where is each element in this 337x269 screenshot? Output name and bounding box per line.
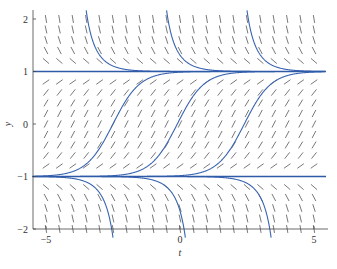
slope-mark <box>139 215 141 223</box>
slope-mark <box>297 80 304 85</box>
slope-mark <box>165 36 167 44</box>
slope-mark <box>312 194 316 201</box>
slope-mark <box>151 110 155 117</box>
slope-mark <box>285 142 289 149</box>
slope-mark <box>231 184 237 189</box>
slope-mark <box>84 152 89 158</box>
slope-mark <box>44 100 48 107</box>
slope-mark <box>191 89 196 95</box>
y-tick-label: −1 <box>17 171 28 182</box>
slope-mark <box>165 110 169 117</box>
slope-mark <box>139 26 141 34</box>
slope-mark <box>111 142 115 149</box>
slope-mark <box>44 142 48 149</box>
slope-mark <box>217 164 224 169</box>
slope-mark <box>217 184 223 189</box>
slope-mark <box>59 26 61 34</box>
slope-mark <box>258 89 263 95</box>
slope-mark <box>313 26 315 34</box>
slope-mark <box>123 164 130 169</box>
slope-mark <box>112 26 114 34</box>
slope-mark <box>163 164 170 169</box>
slope-mark <box>220 15 221 23</box>
slope-mark <box>126 215 128 223</box>
slope-mark <box>233 15 234 23</box>
slope-mark <box>58 120 62 127</box>
slope-mark <box>287 15 288 23</box>
slope-mark <box>179 36 181 44</box>
slope-mark <box>111 152 116 158</box>
slope-mark <box>164 58 170 63</box>
slope-mark <box>84 194 88 201</box>
slope-mark <box>84 120 88 127</box>
axes <box>33 10 328 229</box>
slope-mark <box>85 215 87 223</box>
slope-mark <box>205 142 209 149</box>
slope-mark <box>219 215 221 223</box>
slope-mark <box>125 194 129 201</box>
slope-mark <box>232 100 236 107</box>
slope-mark <box>260 215 262 223</box>
slope-mark <box>99 15 100 23</box>
slope-mark <box>273 204 275 212</box>
slope-mark <box>313 204 315 212</box>
slope-mark <box>257 184 263 189</box>
slope-mark <box>204 89 209 95</box>
slope-mark <box>111 194 115 201</box>
slope-mark <box>218 110 222 117</box>
slope-mark <box>230 80 237 85</box>
slope-mark <box>284 58 290 63</box>
slope-mark <box>177 184 183 189</box>
slope-mark <box>193 15 194 23</box>
slope-mark <box>43 164 50 169</box>
slope-mark <box>312 131 316 138</box>
slope-mark <box>72 36 74 44</box>
slope-mark <box>285 120 289 127</box>
slope-mark <box>272 194 276 201</box>
slope-mark <box>43 58 49 63</box>
slope-mark <box>272 142 276 149</box>
x-tick-label: 0 <box>178 234 183 245</box>
slope-mark <box>85 26 87 34</box>
slope-mark <box>126 26 128 34</box>
slope-mark <box>138 194 142 201</box>
slope-mark <box>259 36 261 44</box>
slope-mark <box>217 58 223 63</box>
slope-mark <box>124 89 129 95</box>
slope-mark <box>125 36 127 44</box>
slope-mark <box>299 194 303 201</box>
slope-mark <box>125 47 129 54</box>
slope-mark <box>97 89 102 95</box>
slope-mark <box>218 194 222 201</box>
slope-mark <box>166 26 168 34</box>
slope-mark <box>286 36 288 44</box>
slope-mark <box>206 215 208 223</box>
slope-mark <box>44 89 49 95</box>
slope-mark <box>123 80 130 85</box>
slope-mark <box>219 26 221 34</box>
slope-mark <box>312 47 316 54</box>
slope-mark <box>300 15 301 23</box>
slope-mark <box>150 58 156 63</box>
slope-mark <box>45 15 46 23</box>
slope-mark <box>259 120 263 127</box>
slope-mark <box>232 194 236 201</box>
slope-mark <box>139 36 141 44</box>
slope-mark <box>138 110 142 117</box>
slope-mark <box>271 89 276 95</box>
slope-mark <box>72 215 74 223</box>
slope-mark <box>71 142 75 149</box>
slope-mark <box>299 100 303 107</box>
slope-mark <box>112 36 114 44</box>
slope-mark <box>286 215 288 223</box>
slope-mark <box>246 26 248 34</box>
slope-mark <box>137 58 143 63</box>
slope-mark <box>110 164 117 169</box>
slope-mark <box>44 110 48 117</box>
slope-mark <box>70 152 75 158</box>
slope-mark <box>273 26 275 34</box>
slope-mark <box>178 131 182 138</box>
slope-mark <box>150 184 156 189</box>
slope-mark <box>56 164 63 169</box>
slope-mark <box>297 164 304 169</box>
